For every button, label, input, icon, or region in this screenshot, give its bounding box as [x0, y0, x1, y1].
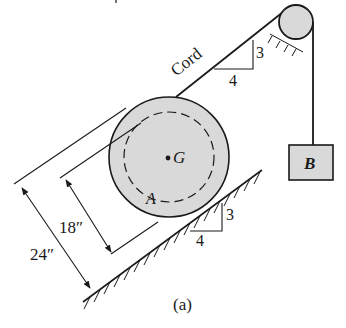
incline-slope-run-label: 4 [196, 233, 204, 249]
block-label-b: B [304, 155, 315, 172]
contact-point-label-a: A [146, 191, 156, 207]
cord-slope-run-label: 4 [229, 73, 237, 89]
figure-caption: (a) [173, 296, 192, 313]
pulley [279, 5, 313, 39]
center-label-g: G [173, 149, 185, 166]
cord-slope-triangle [214, 40, 253, 69]
inner-diameter-label: 18″ [59, 219, 83, 236]
incline-slope-rise-label: 3 [226, 207, 234, 223]
center-of-mass-dot [166, 156, 171, 161]
cord-slope-rise-label: 3 [256, 45, 264, 61]
outer-diameter-label: 24″ [30, 246, 54, 263]
spool-wheel [109, 97, 229, 217]
inner-diameter-dimension [66, 180, 111, 252]
diagram-canvas: Cord 4 3 G A B 3 4 18″ 24″ (a) [0, 0, 346, 328]
